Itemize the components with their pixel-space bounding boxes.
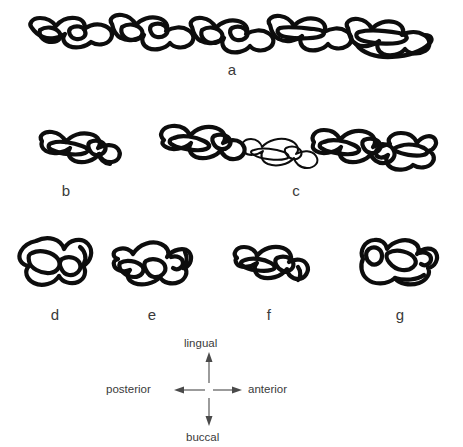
specimen-a-drawing <box>26 4 438 62</box>
specimen-b-drawing <box>36 125 122 170</box>
compass-arrow-buccal <box>206 416 213 426</box>
compass-label-lingual: lingual <box>184 338 217 350</box>
specimen-d-tooth <box>14 233 94 291</box>
panel-label-e: e <box>142 307 162 322</box>
panel-label-c: c <box>286 183 306 198</box>
panel-label-d: d <box>45 307 65 322</box>
specimen-c-drawing <box>156 118 438 174</box>
panel-label-g: g <box>390 307 410 322</box>
compass-label-buccal: buccal <box>186 432 219 444</box>
orientation-compass: lingual buccal posterior anterior <box>106 338 346 443</box>
panel-label-f: f <box>259 307 279 322</box>
compass-arrow-lingual <box>206 352 213 362</box>
specimen-a-tooth-row <box>26 4 438 62</box>
specimen-f-tooth <box>229 240 309 288</box>
specimen-g-tooth <box>355 233 439 289</box>
compass-label-posterior: posterior <box>106 384 151 396</box>
panel-label-b: b <box>56 183 76 198</box>
specimen-g-drawing <box>355 233 439 289</box>
compass-arrow-anterior <box>232 387 242 394</box>
compass-arrow-posterior <box>174 387 184 394</box>
specimen-f-drawing <box>229 240 309 288</box>
specimen-e-drawing <box>108 237 194 289</box>
specimen-b-tooth <box>36 125 122 170</box>
specimen-e-tooth <box>108 237 194 289</box>
figure-canvas: a b <box>0 0 463 447</box>
specimen-c-tooth-row <box>156 118 438 174</box>
panel-label-a: a <box>222 62 242 77</box>
compass-label-anterior: anterior <box>248 384 287 396</box>
specimen-d-drawing <box>14 233 94 291</box>
